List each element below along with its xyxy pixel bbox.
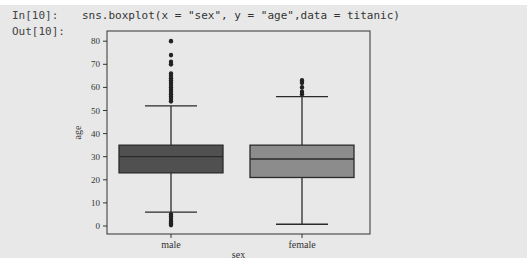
y-tick-label: 80 bbox=[91, 36, 101, 46]
x-axis-label: sex bbox=[232, 249, 245, 258]
y-tick-label: 10 bbox=[91, 198, 101, 208]
y-tick-label: 40 bbox=[91, 129, 101, 139]
y-tick-label: 70 bbox=[91, 59, 101, 69]
x-tick-label: male bbox=[161, 239, 181, 250]
boxplot-chart: 01020304050607080agemalefemalesex bbox=[0, 5, 527, 258]
outlier-point bbox=[300, 78, 304, 83]
y-tick-label: 0 bbox=[96, 221, 101, 231]
box-female bbox=[250, 145, 354, 177]
outlier-point bbox=[300, 85, 304, 90]
outlier-point bbox=[169, 53, 173, 58]
outlier-point bbox=[169, 71, 173, 76]
y-axis-label: age bbox=[72, 125, 83, 139]
plot-frame bbox=[107, 31, 370, 234]
outlier-point bbox=[169, 212, 173, 217]
outlier-point bbox=[169, 39, 173, 44]
notebook-cell: In[10]: sns.boxplot(x = "sex", y = "age"… bbox=[0, 5, 527, 258]
box-male bbox=[119, 145, 223, 173]
outlier-point bbox=[300, 90, 304, 95]
y-tick-label: 60 bbox=[91, 82, 101, 92]
outlier-point bbox=[169, 60, 173, 65]
y-tick-label: 20 bbox=[91, 175, 101, 185]
y-tick-label: 30 bbox=[91, 152, 101, 162]
x-tick-label: female bbox=[288, 239, 316, 250]
y-tick-label: 50 bbox=[91, 106, 101, 116]
